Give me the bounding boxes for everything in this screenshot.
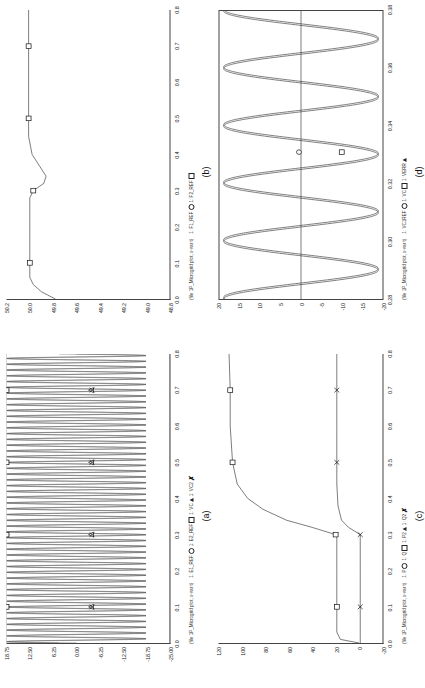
x-tick-label: 0.5 xyxy=(386,459,392,467)
y-tick-label: 48.8 xyxy=(167,303,173,313)
x-tick-label: 0.4 xyxy=(173,151,179,159)
x-tick-label: 0.0 xyxy=(173,296,179,304)
x-tick-label: 0.2 xyxy=(173,568,179,576)
legend-label: 1: VC2 xyxy=(188,482,193,496)
x-tick-label: 0.34 xyxy=(386,121,392,132)
y-tick-label: -20 xyxy=(380,647,386,655)
legend-label: 1: VC xyxy=(188,503,193,515)
x-tick-label: 0.3 xyxy=(173,188,179,196)
x-tick-label: 0.30 xyxy=(386,237,392,248)
square-icon xyxy=(401,183,407,189)
panel-b-frame xyxy=(6,10,170,300)
cross-icon: ✗ xyxy=(400,507,407,513)
y-tick-label: 50.0 xyxy=(26,303,32,313)
y-tick-label: -10 xyxy=(339,303,345,311)
y-tick-label: -5 xyxy=(318,303,324,308)
y-tick-label: -15 xyxy=(359,303,365,311)
y-tick-label: 49.0 xyxy=(144,303,150,313)
panel-c-caption: (c) xyxy=(413,354,423,678)
y-tick-label: 50.2 xyxy=(3,303,9,313)
x-tick-label: 0.1 xyxy=(173,260,179,268)
panel-a-frame xyxy=(6,354,170,644)
legend-label: 1: P xyxy=(401,570,406,578)
panel-b-x-axis: 0.0 0.1 0.2 0.3 0.4 0.5 0.6 0.7 0.8 xyxy=(170,10,185,300)
panel-a-plot-area: 18.75 12.50 6.25 0.00 -6.25 -12.50 -18.7… xyxy=(6,354,170,678)
circle-icon xyxy=(401,563,407,569)
x-tick-label: 0.2 xyxy=(386,568,392,576)
legend-label: 1: Q2 xyxy=(401,514,406,525)
circle-icon xyxy=(188,205,194,211)
legend-item: 1: F1_REF xyxy=(188,205,194,234)
x-tick-label: 0.32 xyxy=(386,179,392,190)
triangle-icon xyxy=(402,158,406,162)
legend-label: 1: P2 xyxy=(401,532,406,543)
y-tick-label: 49.6 xyxy=(73,303,79,313)
panel-d-file-reference: (file 1P_Microgrid plot, x-var t) xyxy=(401,239,406,300)
panel-a-file-reference: (file 1P_Microgrid plot, x-var t) xyxy=(188,583,193,644)
y-tick-label: 120 xyxy=(215,647,221,656)
y-tick-label: 18.75 xyxy=(3,647,9,660)
x-tick-label: 0.5 xyxy=(173,115,179,123)
panel-d: 20 15 10 5 0 -5 -10 -15 -20 0.28 0.30 0.… xyxy=(212,0,425,344)
x-tick-label: 0.2 xyxy=(173,224,179,232)
panel-b-caption: (b) xyxy=(200,10,210,334)
legend-label: 1: VC xyxy=(401,190,406,202)
triangle-icon xyxy=(402,527,406,531)
panel-d-frame xyxy=(218,10,383,300)
square-icon xyxy=(188,173,194,179)
x-tick-label: 0.0 xyxy=(386,640,392,648)
legend-item: 1: VC xyxy=(188,498,193,515)
legend-item: 1: VC2✗ xyxy=(187,475,194,496)
legend-label: 1: E2_REF xyxy=(188,524,193,546)
panel-d-legend: (file 1P_Microgrid plot, x-var t) 1: VC1… xyxy=(398,10,409,300)
y-tick-label: 80 xyxy=(262,647,268,653)
x-tick-label: 0.3 xyxy=(386,532,392,540)
x-tick-label: 0.4 xyxy=(386,495,392,503)
x-tick-label: 0.0 xyxy=(173,640,179,648)
x-tick-label: 0.1 xyxy=(386,604,392,612)
y-tick-label: 10 xyxy=(256,303,262,309)
x-tick-label: 0.6 xyxy=(173,423,179,431)
y-tick-label: 100 xyxy=(239,647,245,656)
legend-label: 1: VC1REF xyxy=(401,210,406,233)
panel-b-y-axis: 50.2 50.0 49.8 49.6 49.4 49.2 49.0 48.8 xyxy=(6,300,170,334)
panel-a-series-svg xyxy=(6,354,169,643)
circle-icon xyxy=(188,548,194,554)
y-tick-label: 0 xyxy=(298,303,304,306)
y-tick-label: -25.00 xyxy=(167,647,173,662)
legend-item: 1: VC1REF xyxy=(401,203,407,233)
y-tick-label: -12.50 xyxy=(120,647,126,662)
panel-a-legend: (file 1P_Microgrid plot, x-var t) 1: E1_… xyxy=(185,354,196,644)
y-tick-label: 15 xyxy=(236,303,242,309)
legend-label: 1: VERR xyxy=(401,163,406,181)
panel-a-caption: (a) xyxy=(200,354,210,678)
y-tick-label: 20 xyxy=(333,647,339,653)
panel-d-caption: (d) xyxy=(413,10,423,334)
panel-c-series-svg xyxy=(218,354,382,643)
panel-a: 18.75 12.50 6.25 0.00 -6.25 -12.50 -18.7… xyxy=(0,344,212,688)
x-tick-label: 0.8 xyxy=(173,6,179,14)
y-tick-label: 0.00 xyxy=(73,647,79,657)
y-tick-label: 6.25 xyxy=(50,647,56,657)
legend-label: 1: Q xyxy=(401,552,406,561)
y-tick-label: 20 xyxy=(215,303,221,309)
panel-b-file-reference: (file 1P_Microgrid plot, x-var t) xyxy=(188,239,193,300)
panel-c-x-axis: 0.0 0.1 0.2 0.3 0.4 0.5 0.6 0.7 0.8 xyxy=(383,354,398,644)
legend-label: 1: F2_REF xyxy=(188,180,193,202)
panel-a-x-axis: 0.0 0.1 0.2 0.3 0.4 0.5 0.6 0.7 0.8 xyxy=(170,354,185,644)
legend-label: 1: E1_REF xyxy=(188,555,193,577)
panel-b: 50.2 50.0 49.8 49.6 49.4 49.2 49.0 48.8 … xyxy=(0,0,212,344)
figure-sheet: 18.75 12.50 6.25 0.00 -6.25 -12.50 -18.7… xyxy=(0,0,425,688)
x-tick-label: 0.7 xyxy=(173,387,179,395)
panel-d-plot-area: 20 15 10 5 0 -5 -10 -15 -20 xyxy=(218,10,383,334)
square-icon xyxy=(188,517,194,523)
panel-b-legend: (file 1P_Microgrid plot, x-var t) 1: F1_… xyxy=(185,10,196,300)
x-tick-label: 0.4 xyxy=(173,495,179,503)
y-tick-label: 40 xyxy=(309,647,315,653)
panel-b-plot-area: 50.2 50.0 49.8 49.6 49.4 49.2 49.0 48.8 xyxy=(6,10,170,334)
x-tick-label: 0.1 xyxy=(173,604,179,612)
x-tick-label: 0.36 xyxy=(386,63,392,74)
x-tick-label: 0.38 xyxy=(386,5,392,16)
panel-a-y-axis: 18.75 12.50 6.25 0.00 -6.25 -12.50 -18.7… xyxy=(6,644,170,678)
y-tick-label: -20 xyxy=(380,303,386,311)
